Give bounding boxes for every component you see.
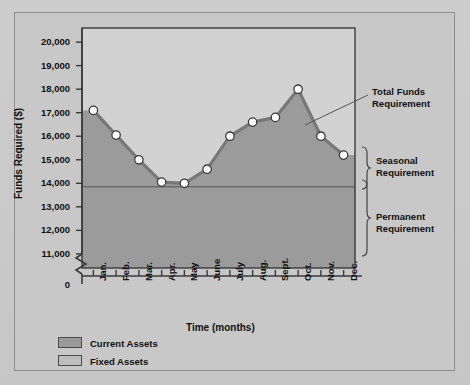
- x-tick-label-mar: Mar.: [143, 262, 154, 281]
- legend-swatch-1: [58, 355, 82, 366]
- annotation-permanent-line1: Permanent: [376, 211, 425, 222]
- x-tick-label-july: July: [234, 262, 245, 281]
- x-tick-label-jan: Jan.: [97, 262, 108, 281]
- x-tick-label-feb: Feb.: [120, 261, 131, 281]
- y-tick-label: 14,000: [14, 177, 70, 188]
- y-tick-label: 15,000: [14, 154, 70, 165]
- y-tick-label: 18,000: [14, 83, 70, 94]
- annotation-seasonal-line2: Requirement: [376, 167, 434, 178]
- y-tick-label: 11,000: [14, 248, 70, 259]
- data-point-apr: [157, 178, 165, 186]
- x-axis-title: Time (months): [186, 322, 255, 333]
- y-tick-label: 19,000: [14, 60, 70, 71]
- annotation-seasonal-line1: Seasonal: [376, 155, 418, 166]
- legend-label-0: Current Assets: [90, 338, 158, 349]
- data-point-aug: [248, 118, 256, 126]
- y-tick-label: 16,000: [14, 130, 70, 141]
- x-tick-label-june: June: [211, 259, 222, 281]
- data-point-mar: [135, 156, 143, 164]
- y-tick-label: 13,000: [14, 201, 70, 212]
- annotation-seasonal-requirement: Seasonal Requirement: [376, 155, 434, 178]
- annotation-total-funds-requirement: Total Funds Requirement: [372, 86, 430, 109]
- x-tick-label-may: May: [188, 263, 199, 281]
- data-point-july: [226, 132, 234, 140]
- legend-swatch-0: [58, 337, 82, 348]
- permanent-requirement-brace: [362, 180, 371, 256]
- annotation-permanent-requirement: Permanent Requirement: [376, 211, 434, 234]
- x-tick-label-sept: Sept.: [279, 258, 290, 281]
- y-axis-origin-label: 0: [14, 279, 70, 290]
- data-point-sept: [271, 113, 279, 121]
- data-point-may: [180, 179, 188, 187]
- data-point-jan: [89, 106, 97, 114]
- y-tick-label: 17,000: [14, 107, 70, 118]
- x-tick-label-aug: Aug.: [257, 260, 268, 281]
- legend-label-1: Fixed Assets: [90, 356, 148, 367]
- chart-figure: Funds Required ($) 0 Time (months) 11,00…: [0, 0, 470, 385]
- x-tick-label-nov: Nov.: [325, 261, 336, 281]
- annotation-total-funds-line1: Total Funds: [372, 86, 425, 97]
- x-tick-label-oct: Oct.: [302, 263, 313, 281]
- data-point-feb: [112, 131, 120, 139]
- data-point-dec: [339, 151, 347, 159]
- annotation-total-funds-line2: Requirement: [372, 98, 430, 109]
- annotation-permanent-line2: Requirement: [376, 223, 434, 234]
- y-tick-label: 12,000: [14, 224, 70, 235]
- x-tick-label-apr: Apr.: [166, 263, 177, 281]
- data-point-nov: [317, 132, 325, 140]
- y-tick-label: 20,000: [14, 36, 70, 47]
- data-point-oct: [294, 85, 302, 93]
- data-point-june: [203, 165, 211, 173]
- y-axis-ticks: [76, 42, 82, 254]
- x-tick-label-dec: Dec.: [348, 261, 359, 281]
